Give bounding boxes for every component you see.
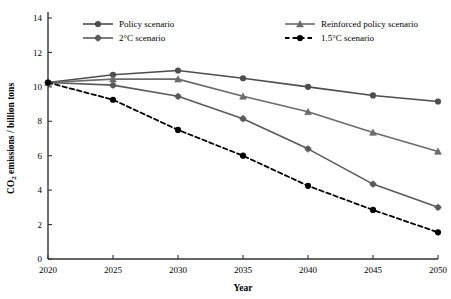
data-point-marker [175, 67, 181, 73]
x-axis-title: Year [234, 283, 254, 293]
y-tick-label: 14 [33, 13, 43, 23]
y-tick-label: 2 [38, 220, 43, 230]
x-tick-label: 2030 [169, 265, 188, 275]
emissions-line-chart: Policy scenarioReinforced policy scenari… [0, 0, 451, 299]
x-tick-label: 2050 [429, 265, 448, 275]
data-point-marker [435, 98, 441, 104]
y-tick-label: 10 [33, 82, 43, 92]
data-point-marker [175, 127, 181, 133]
data-point-marker [305, 84, 311, 90]
x-tick-label: 2025 [104, 265, 123, 275]
y-tick-label: 12 [33, 48, 42, 58]
x-tick-label: 2020 [39, 265, 58, 275]
legend-label: Policy scenario [119, 19, 175, 29]
x-tick-label: 2035 [234, 265, 253, 275]
x-tick-label: 2040 [299, 265, 318, 275]
data-point-marker [370, 92, 376, 98]
data-point-marker [95, 21, 101, 27]
legend-label: 2°C scenario [119, 33, 166, 43]
y-tick-label: 0 [38, 254, 43, 264]
y-tick-label: 4 [38, 185, 43, 195]
data-point-marker [110, 97, 116, 103]
data-point-marker [305, 183, 311, 189]
legend-label: Reinforced policy scenario [321, 19, 418, 29]
chart-container: Policy scenarioReinforced policy scenari… [0, 0, 451, 299]
data-point-marker [240, 75, 246, 81]
y-tick-label: 6 [38, 151, 43, 161]
y-tick-label: 8 [38, 116, 43, 126]
data-point-marker [370, 207, 376, 213]
data-point-marker [435, 229, 441, 235]
x-tick-label: 2045 [364, 265, 383, 275]
data-point-marker [45, 79, 51, 85]
data-point-marker [240, 153, 246, 159]
data-point-marker [297, 35, 303, 41]
legend-label: 1.5°C scenario [321, 33, 375, 43]
